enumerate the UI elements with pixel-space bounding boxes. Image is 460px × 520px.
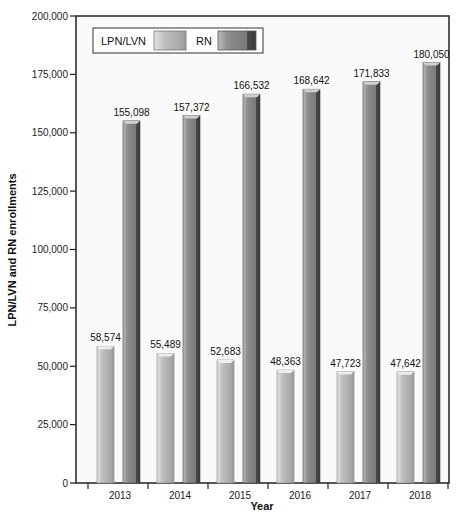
- data-label: 47,723: [330, 358, 361, 369]
- y-tick-label: 150,000: [32, 127, 69, 138]
- data-label: 52,683: [210, 346, 241, 357]
- legend-label-rn: RN: [196, 35, 212, 47]
- y-tick-label: 0: [62, 478, 68, 489]
- bar-rn-2016: [303, 89, 320, 483]
- y-axis-title: LPN/LVN and RN enrollments: [6, 173, 18, 326]
- y-tick-label: 100,000: [32, 244, 69, 255]
- data-label: 166,532: [233, 80, 270, 91]
- data-label: 168,642: [293, 75, 330, 86]
- bar-lpnlvn-2014: [157, 353, 174, 483]
- y-tick-label: 175,000: [32, 69, 69, 80]
- bar-cap: [397, 372, 414, 375]
- bar-lpnlvn-2015: [217, 360, 234, 483]
- bar-rn-2018: [423, 63, 440, 483]
- data-label: 47,642: [390, 358, 421, 369]
- x-tick-label: 2018: [409, 490, 432, 501]
- data-label: 58,574: [90, 332, 121, 343]
- bar-chart: 58,57455,48952,68348,36347,72347,642155,…: [0, 0, 460, 520]
- bar-cap: [277, 370, 294, 373]
- y-tick-label: 200,000: [32, 11, 69, 22]
- data-label: 155,098: [113, 107, 150, 118]
- bar-lpnlvn-2013: [97, 346, 114, 483]
- bar-cap: [217, 360, 234, 363]
- bar-cap: [337, 372, 354, 375]
- x-tick-label: 2015: [229, 490, 252, 501]
- data-label: 157,372: [173, 102, 210, 113]
- x-tick-label: 2013: [109, 490, 132, 501]
- legend: LPN/LVN RN: [93, 28, 263, 53]
- bar-lpnlvn-2016: [277, 370, 294, 483]
- bar-rn-2017: [363, 82, 380, 483]
- data-label: 180,050: [413, 49, 450, 60]
- bar-lpnlvn-2018: [397, 372, 414, 483]
- legend-swatch-lpn: [154, 31, 186, 50]
- bar-lpnlvn-2017: [337, 372, 354, 483]
- bar-rn-2013: [123, 121, 140, 483]
- x-tick-label: 2017: [349, 490, 372, 501]
- bar-cap: [123, 121, 140, 124]
- x-tick-label: 2016: [289, 490, 312, 501]
- x-axis-title: Year: [250, 500, 274, 512]
- data-label: 55,489: [150, 339, 181, 350]
- y-tick-label: 75,000: [37, 302, 68, 313]
- bar-cap: [183, 116, 200, 119]
- legend-swatch-rn: [218, 31, 256, 50]
- y-tick-label: 50,000: [37, 361, 68, 372]
- bar-cap: [97, 346, 114, 349]
- legend-label-lpn: LPN/LVN: [101, 35, 146, 47]
- y-tick-label: 25,000: [37, 419, 68, 430]
- data-label: 171,833: [353, 68, 390, 79]
- data-label: 48,363: [270, 356, 301, 367]
- bar-rn-2014: [183, 116, 200, 483]
- bar-cap: [157, 353, 174, 356]
- y-tick-label: 125,000: [32, 186, 69, 197]
- x-tick-label: 2014: [169, 490, 192, 501]
- bar-rn-2015: [243, 94, 260, 483]
